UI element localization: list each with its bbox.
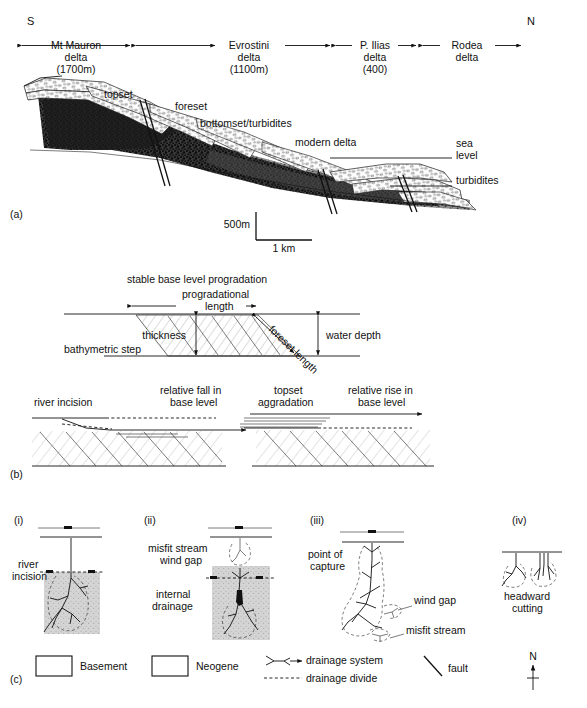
stage-i-label-2: incision [12,570,47,582]
stage-ii-extra-2: drainage [152,600,193,612]
stage-ii-marker-left [210,576,217,579]
scale-horizontal-label: 1 km [273,242,296,254]
stage-number: (ii) [144,514,156,526]
relative-fall-label-1: relative fall in [160,384,221,396]
stage-iii-extra-2: misfit stream [406,624,466,636]
legend-label-fault: fault [448,662,468,674]
progradational-label-1: progradational [182,288,249,300]
legend-swatch-neogene [152,656,188,676]
delta-label-p-ilias: P. Ilias delta (400) [360,39,390,75]
annotation-level: level [456,149,478,161]
scale-vertical-label: 500m [224,218,251,230]
delta-word-delta: delta [65,51,88,63]
progradational-label-2: length [205,300,234,312]
annotation-topset: topset [104,88,133,100]
delta-word-delta: delta [238,51,261,63]
annotation-turbidites: turbidites [456,174,499,186]
river-incision-label: river incision [34,396,93,408]
annotation-sea: sea [456,137,473,149]
legend-swatch-basement [36,656,72,676]
topset-aggradation-label-1: topset [274,384,303,396]
delta-elevation: (400) [363,63,388,75]
stage-number: (iv) [512,514,527,526]
legend-label-neogene: Neogene [196,660,239,672]
annotation-bottomset: bottomset/turbidites [200,117,292,129]
water-depth-label: water depth [325,329,381,341]
relative-fall-label-2: base level [170,396,217,408]
stage-iii-divide-marker [368,530,376,533]
delta-elevation: (1100m) [230,63,268,75]
relative-rise-label-1: relative rise in [348,384,413,396]
delta-word-delta: delta [456,51,479,63]
panel-b-title: stable base level progradation [127,273,267,285]
figure-canvas: S N Mt Mauron delta (1700m) Evrostini de… [0,0,587,708]
legend-label-drainage-divide: drainage divide [306,672,377,684]
topset-aggradation-label-2: aggradation [258,396,314,408]
relative-rise-label-2: base level [358,396,405,408]
stage-i-marker-right [88,570,95,573]
panel-label-c: (c) [10,673,22,685]
panel-label-a: (a) [10,208,23,220]
stage-i-marker-left [46,570,53,573]
compass-label-south: S [27,15,34,27]
delta-word-delta: delta [364,51,387,63]
stage-ii-marker-right [256,576,263,579]
stage-number: (iii) [310,514,324,526]
legend-label-drainage-system: drainage system [306,654,383,666]
delta-name: Rodea [452,39,483,51]
north-arrow-label: N [529,650,537,662]
delta-elevation: (1700m) [56,63,95,75]
stage-i-divide-marker [64,526,72,529]
annotation-modern-delta: modern delta [295,136,356,148]
bathymetric-step-label: bathymetric step [64,343,141,355]
stage-ii-divide-marker [235,526,243,529]
stage-iii-label-1: point of [308,548,343,560]
stage-ii-extra-1: internal [156,588,190,600]
thickness-label: thickness [142,329,186,341]
stage-ii-label-2: wind gap [159,554,202,566]
delta-label-rodea: Rodea delta [452,39,483,63]
panel-label-b: (b) [10,468,23,480]
legend-label-basement: Basement [80,660,127,672]
figure-root: S N Mt Mauron delta (1700m) Evrostini de… [0,0,587,708]
stage-iii-extra-1: wind gap [413,594,456,606]
fall-sediment-body [32,431,222,466]
stage-number: (i) [14,514,23,526]
stage-iii-label-2: capture [310,560,345,572]
delta-name: Mt Mauron [51,39,101,51]
delta-name: P. Ilias [360,39,390,51]
stage-i-label-1: river [18,558,39,570]
stage-iv-label-1: headward [504,590,550,602]
compass-label-north: N [527,15,535,27]
stage-i-neogene-basin [44,572,100,634]
stage-iv-label-2: cutting [512,602,543,614]
stage-ii-label-1: misfit stream [148,542,208,554]
annotation-foreset: foreset [175,100,207,112]
delta-name: Evrostini [229,39,269,51]
